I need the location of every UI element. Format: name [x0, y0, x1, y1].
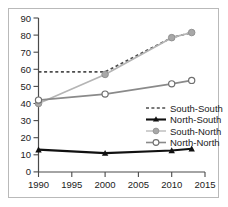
- x-tick-label: 2015: [194, 179, 215, 190]
- legend-label: South-South: [170, 103, 223, 114]
- x-tick-label: 2005: [128, 179, 149, 190]
- legend-label: North-South: [170, 114, 221, 125]
- filled-circle-marker-icon: [153, 128, 159, 134]
- x-tick-label: 2010: [161, 179, 182, 190]
- series-line: [39, 149, 192, 153]
- series-south-north: [35, 29, 195, 107]
- open-circle-marker-icon: [35, 97, 41, 103]
- filled-circle-marker-icon: [188, 29, 195, 36]
- open-circle-marker-icon: [189, 77, 195, 83]
- legend-label: South-North: [170, 126, 221, 137]
- line-chart: 90 80 70 60 50 40 30 20 10: [0, 0, 228, 207]
- series-north-north: [35, 77, 194, 103]
- legend: South-South North-South South-North Nort…: [146, 103, 223, 149]
- legend-item-north-north[interactable]: North-North: [146, 137, 220, 148]
- x-tick-label: 2000: [95, 179, 116, 190]
- filled-circle-marker-icon: [168, 34, 175, 41]
- legend-item-south-south[interactable]: South-South: [146, 103, 223, 114]
- x-tick-label: 1995: [61, 179, 82, 190]
- y-tick-label: 60: [20, 64, 31, 75]
- legend-label: North-North: [170, 137, 220, 148]
- y-tick-label: 20: [20, 132, 31, 143]
- open-circle-marker-icon: [153, 140, 159, 146]
- y-tick-label: 80: [20, 30, 31, 41]
- y-axis-ticks: 90 80 70 60 50 40 30 20 10: [20, 13, 38, 178]
- legend-item-south-north[interactable]: South-North: [146, 126, 221, 137]
- legend-item-north-south[interactable]: North-South: [146, 114, 221, 125]
- y-tick-label: 30: [20, 115, 31, 126]
- open-circle-marker-icon: [169, 81, 175, 87]
- y-tick-label: 70: [20, 47, 31, 58]
- filled-circle-marker-icon: [102, 71, 109, 78]
- open-circle-marker-icon: [102, 91, 108, 97]
- x-axis-ticks: 1990 1995 2000 2005 2010 2015: [28, 172, 216, 190]
- y-tick-label: 50: [20, 81, 31, 92]
- y-tick-label: 90: [20, 13, 31, 24]
- y-tick-label: 10: [20, 149, 31, 160]
- x-tick-label: 1990: [28, 179, 49, 190]
- chart-screenshot: 90 80 70 60 50 40 30 20 10: [0, 0, 228, 207]
- y-tick-label: 0: [26, 166, 31, 177]
- y-tick-label: 40: [20, 98, 31, 109]
